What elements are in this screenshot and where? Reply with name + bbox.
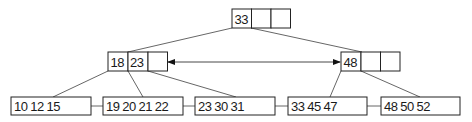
internal-left-key-1: 18 [111, 55, 125, 70]
internal-right-cell-2 [361, 52, 381, 71]
edge-left-to-leaf-2 [128, 71, 143, 97]
leaf-2-keys: 19 20 21 22 [106, 99, 168, 114]
internal-right-key-1: 48 [344, 55, 358, 70]
edge-left-to-leaf-3 [148, 71, 236, 97]
edge-left-to-leaf-1 [53, 71, 108, 97]
root-key-1: 33 [235, 12, 249, 27]
btree-diagram: 33 18 23 48 10 12 15 19 20 21 22 23 30 3… [0, 0, 472, 122]
edge-root-to-left [128, 28, 232, 52]
edge-right-to-leaf-4 [330, 71, 341, 97]
root-key-cell-3 [271, 9, 291, 28]
internal-right-cell-3 [381, 52, 401, 71]
edges-internal [53, 71, 420, 97]
root-key-cell-2 [252, 9, 272, 28]
leaf-1-keys: 10 12 15 [14, 99, 60, 114]
edges-root [128, 28, 362, 52]
edge-right-to-leaf-5 [361, 71, 420, 97]
leaf-3-keys: 23 30 31 [198, 99, 244, 114]
internal-left-key-2: 23 [130, 55, 144, 70]
edge-root-to-right [251, 28, 362, 52]
leaf-4-keys: 33 45 47 [291, 99, 337, 114]
leaf-5-keys: 48 50 52 [384, 99, 430, 114]
internal-left-cell-3 [148, 52, 168, 71]
